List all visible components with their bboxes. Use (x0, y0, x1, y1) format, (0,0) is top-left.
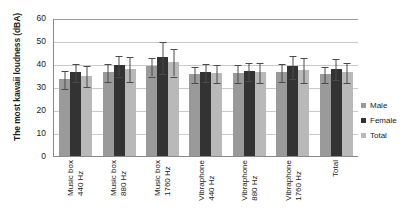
legend-item: Female (361, 113, 411, 128)
error-bar (281, 64, 282, 82)
error-bar-cap-bottom (322, 83, 329, 84)
bar-chart: The most kawaii loudness (dBA) 010203040… (0, 0, 411, 224)
legend-swatch-icon (361, 118, 366, 123)
y-tick-label: 60 (4, 13, 46, 23)
bar (146, 66, 157, 156)
bar-slot (146, 19, 157, 156)
error-bar-cap-bottom (159, 74, 166, 75)
error-bar-cap-top (202, 64, 209, 65)
y-tick-label: 20 (4, 105, 46, 115)
bar-slot (189, 19, 200, 156)
error-bar-cap-top (333, 59, 340, 60)
error-bar-cap-bottom (105, 82, 112, 83)
bar-slot (59, 19, 70, 156)
bar (255, 72, 266, 156)
error-bar (64, 71, 65, 89)
x-tick-label: Total (332, 160, 342, 177)
legend-item: Male (361, 98, 411, 113)
error-bar-cap-top (170, 49, 177, 50)
error-bar-cap-top (61, 71, 68, 72)
error-bar (347, 63, 348, 84)
error-bar (108, 64, 109, 82)
bar (189, 74, 200, 156)
bar (200, 72, 211, 156)
error-bar (249, 63, 250, 81)
x-label-slot: Vibraphone880 Hz (227, 158, 271, 224)
bar-slot (103, 19, 114, 156)
bar-slot (331, 19, 342, 156)
bar-group (184, 19, 227, 156)
error-bar (151, 58, 152, 76)
bar-slot (287, 19, 298, 156)
x-axis-tick-labels: Music box440 HzMusic box880 HzMusic box1… (53, 158, 358, 224)
error-bar (162, 42, 163, 74)
bar-slot (233, 19, 244, 156)
error-bar-cap-top (246, 63, 253, 64)
error-bar-cap-bottom (202, 82, 209, 83)
bar (342, 72, 353, 156)
error-bar-cap-top (83, 66, 90, 67)
legend: MaleFemaleTotal (361, 98, 411, 143)
error-bar-cap-bottom (246, 81, 253, 82)
error-bar-cap-top (127, 57, 134, 58)
bar-group (141, 19, 184, 156)
plot-area (53, 19, 358, 157)
bar-slot (157, 19, 168, 156)
legend-label: Female (370, 116, 397, 125)
error-bar-cap-top (116, 56, 123, 57)
legend-label: Male (370, 101, 387, 110)
x-tick-label: Music box1760 Hz (152, 160, 171, 196)
error-bar-cap-bottom (148, 77, 155, 78)
x-tick-label: Music box880 Hz (109, 160, 128, 196)
bar (70, 72, 81, 156)
error-bar (260, 63, 261, 84)
bar-slot (125, 19, 136, 156)
legend-swatch-icon (361, 103, 366, 108)
error-bar-cap-bottom (300, 83, 307, 84)
legend-swatch-icon (361, 133, 366, 138)
error-bar (75, 64, 76, 82)
y-tick-label: 40 (4, 59, 46, 69)
x-tick-label: Vibraphone1760 Hz (283, 160, 302, 201)
error-bar-cap-bottom (116, 77, 123, 78)
bar (211, 73, 222, 156)
error-bar (194, 67, 195, 83)
error-bar (86, 66, 87, 87)
x-label-slot: Total (314, 158, 358, 224)
error-bar (238, 65, 239, 83)
error-bar (130, 57, 131, 82)
bar (233, 73, 244, 156)
error-bar-cap-top (278, 64, 285, 65)
error-bar (292, 56, 293, 79)
bar-slot (342, 19, 353, 156)
error-bar-cap-bottom (213, 83, 220, 84)
error-bar-cap-bottom (127, 82, 134, 83)
error-bar-cap-bottom (191, 83, 198, 84)
bar-slot (70, 19, 81, 156)
legend-item: Total (361, 128, 411, 143)
error-bar-cap-bottom (278, 82, 285, 83)
x-label-slot: Vibraphone1760 Hz (271, 158, 315, 224)
bar (114, 65, 125, 156)
bar-group (97, 19, 140, 156)
error-bar-cap-top (322, 67, 329, 68)
error-bar (336, 59, 337, 80)
error-bar-cap-bottom (72, 82, 79, 83)
x-label-slot: Music box880 Hz (97, 158, 141, 224)
bar (320, 74, 331, 156)
error-bar-cap-top (344, 63, 351, 64)
bar-groups (54, 19, 358, 156)
bar-slot (244, 19, 255, 156)
bar (244, 71, 255, 156)
error-bar-cap-bottom (333, 80, 340, 81)
x-tick-label: Music box440 Hz (65, 160, 84, 196)
bar-group (315, 19, 358, 156)
bar (276, 72, 287, 156)
error-bar-cap-bottom (170, 77, 177, 78)
bar-group (271, 19, 314, 156)
error-bar-cap-bottom (257, 83, 264, 84)
bar (103, 72, 114, 156)
error-bar-cap-top (235, 65, 242, 66)
x-label-slot: Vibraphone440 Hz (184, 158, 228, 224)
bar-slot (276, 19, 287, 156)
